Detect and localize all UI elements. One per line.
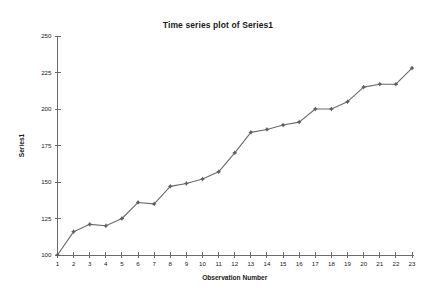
x-tick-label: 13 xyxy=(247,260,254,267)
data-point xyxy=(378,82,382,86)
x-tick-label: 4 xyxy=(104,260,108,267)
x-tick-label: 7 xyxy=(152,260,156,267)
x-tick-label: 9 xyxy=(185,260,189,267)
x-tick-label: 16 xyxy=(296,260,303,267)
x-tick-label: 5 xyxy=(120,260,124,267)
plot-area: 100125150175200225250 123456789101112131… xyxy=(0,0,436,291)
data-point xyxy=(184,181,188,185)
data-point xyxy=(104,224,108,228)
y-tick-label: 125 xyxy=(41,215,52,222)
y-tick-label: 175 xyxy=(41,142,52,149)
data-point xyxy=(329,107,333,111)
y-tick-label: 150 xyxy=(41,178,52,185)
series-line xyxy=(58,68,413,255)
x-tick-label: 22 xyxy=(392,260,399,267)
y-tick-label: 200 xyxy=(41,105,52,112)
y-axis-title: Series1 xyxy=(18,133,25,157)
x-axis: 1234567891011121314151617181920212223 xyxy=(56,252,416,267)
x-tick-label: 18 xyxy=(328,260,335,267)
x-tick-label: 23 xyxy=(409,260,416,267)
x-tick-label: 8 xyxy=(169,260,173,267)
data-point xyxy=(281,123,285,127)
y-tick-label: 100 xyxy=(41,251,52,258)
x-tick-label: 2 xyxy=(72,260,76,267)
data-point xyxy=(88,222,92,226)
x-tick-label: 20 xyxy=(360,260,367,267)
x-tick-label: 14 xyxy=(264,260,271,267)
x-tick-label: 21 xyxy=(376,260,383,267)
x-tick-label: 19 xyxy=(344,260,351,267)
y-tick-label: 225 xyxy=(41,69,52,76)
x-tick-label: 11 xyxy=(215,260,222,267)
data-point xyxy=(200,177,204,181)
x-tick-label: 3 xyxy=(88,260,92,267)
series-series1 xyxy=(55,66,414,257)
x-tick-label: 17 xyxy=(312,260,319,267)
time-series-chart: Time series plot of Series1 100125150175… xyxy=(0,0,436,291)
x-tick-label: 12 xyxy=(231,260,238,267)
x-tick-label: 6 xyxy=(136,260,140,267)
x-tick-label: 10 xyxy=(199,260,206,267)
y-tick-label: 250 xyxy=(41,32,52,39)
x-tick-label: 15 xyxy=(280,260,287,267)
y-axis: 100125150175200225250 xyxy=(41,32,60,258)
x-axis-title: Observation Number xyxy=(202,274,268,281)
x-tick-label: 1 xyxy=(56,260,60,267)
data-point xyxy=(265,127,269,131)
